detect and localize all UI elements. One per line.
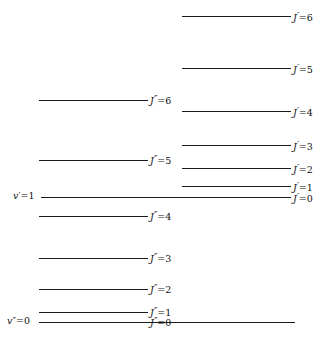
upper-rotational-line-1 [182,186,291,187]
equals-sign: = [21,190,29,201]
lower-rotational-line-2 [39,289,148,290]
lower-rotational-line-5 [39,160,148,161]
quantum-number-value: 0 [24,315,30,326]
equals-sign: = [299,164,307,175]
lower-rotational-label-0: J″=0 [150,316,171,327]
lower-rotational-label-5: J″=5 [150,154,171,165]
quantum-number-value: 1 [29,190,35,201]
upper-rotational-label-0: J′=0 [293,192,313,203]
upper-rotational-label-2: J′=2 [293,163,313,174]
quantum-number-value: 5 [307,64,313,75]
equals-sign: = [299,64,307,75]
equals-sign: = [299,12,307,23]
equals-sign: = [16,315,24,326]
quantum-number-value: 2 [307,164,313,175]
lower-rotational-label-6: J″=6 [150,94,171,105]
upper-rotational-line-3 [182,145,291,146]
upper-rotational-line-6 [182,16,291,17]
quantum-number-value: 3 [165,253,171,264]
lower-rotational-label-2: J″=2 [150,283,171,294]
quantum-number-value: 3 [307,141,313,152]
upper-rotational-line-4 [182,111,291,112]
lower-rotational-label-4: J″=4 [150,210,171,221]
upper-rotational-label-3: J′=3 [293,140,313,151]
quantum-number-value: 2 [165,284,171,295]
quantum-number-value: 5 [165,155,171,166]
vibrational-v-lower-label: v″=0 [7,316,30,326]
lower-rotational-line-6 [39,100,148,101]
quantum-number-value: 6 [165,95,171,106]
upper-rotational-line-5 [182,68,291,69]
quantum-number-value: 4 [307,107,313,118]
lower-rotational-line-3 [39,258,148,259]
upper-rotational-label-5: J′=5 [293,63,313,74]
lower-rotational-label-3: J″=3 [150,252,171,263]
quantum-number-value: 0 [307,193,313,204]
equals-sign: = [299,141,307,152]
upper-rotational-line-2 [182,168,291,169]
lower-rotational-line-4 [39,216,148,217]
upper-rotational-label-4: J′=4 [293,106,313,117]
vibrational-v-upper-label: v′=1 [13,191,35,201]
equals-sign: = [299,107,307,118]
energy-level-diagram: v′=1v″=0J″=6J″=5J″=4J″=3J″=2J″=1J″=0J′=6… [0,0,334,341]
quantum-number-value: 4 [165,211,171,222]
equals-sign: = [299,193,307,204]
lower-rotational-line-1 [39,312,148,313]
quantum-number-value: 6 [307,12,313,23]
upper-rotational-label-6: J′=6 [293,11,313,22]
quantum-number-value: 0 [165,317,171,328]
upper-rotational-line-0 [182,197,291,198]
lower-rotational-line-0 [39,322,148,323]
